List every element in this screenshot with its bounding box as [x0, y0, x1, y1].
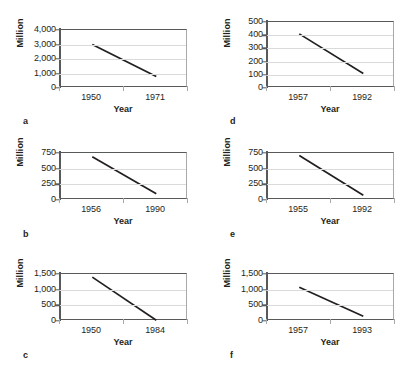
y-tick-label: 100 — [248, 69, 263, 79]
x-tick-mark — [394, 198, 395, 203]
y-tick-mark — [262, 21, 267, 22]
gridline — [59, 184, 186, 185]
x-tick-mark — [330, 198, 331, 203]
gridline — [59, 59, 186, 60]
chart-panel-a: Million 01,0002,0003,0004,000 19501971 Y… — [2, 2, 202, 122]
y-tick-mark — [262, 168, 267, 169]
x-tick-mark — [266, 198, 267, 203]
y-tick-label: 500 — [248, 299, 263, 309]
y-tick-label: 2,000 — [34, 53, 56, 63]
x-axis-title: Year — [266, 216, 394, 226]
data-line — [266, 153, 394, 200]
plot-area — [266, 273, 394, 320]
y-tick-label: 500 — [248, 163, 263, 173]
x-tick-mark — [187, 198, 188, 203]
gridline — [59, 290, 186, 291]
y-tick-label: 200 — [248, 56, 263, 66]
y-tick-label: 1,000 — [34, 68, 56, 78]
multi-panel-line-chart-figure: Million 01,0002,0003,0004,000 19501971 Y… — [0, 0, 415, 375]
y-tick-label: 1,500 — [34, 268, 56, 278]
plot-area — [266, 152, 394, 199]
y-tick-mark — [262, 48, 267, 49]
x-tick-label: 1984 — [145, 325, 165, 335]
data-line — [266, 274, 394, 321]
x-tick-label: 1957 — [288, 325, 308, 335]
x-axis-title: Year — [59, 104, 187, 114]
x-axis-title: Year — [59, 216, 187, 226]
y-tick-mark — [55, 73, 60, 74]
y-tick-label: 500 — [41, 163, 56, 173]
y-axis-tick-labels: 0100200300400500 — [219, 2, 263, 122]
y-axis-tick-labels: 05001,0001,500 — [219, 248, 263, 368]
y-tick-label: 1,500 — [241, 268, 263, 278]
x-tick-label: 1992 — [352, 204, 372, 214]
x-tick-mark — [123, 319, 124, 324]
y-tick-mark — [262, 184, 267, 185]
gridline — [266, 290, 393, 291]
y-tick-mark — [262, 61, 267, 62]
x-tick-label: 1992 — [352, 92, 372, 102]
x-tick-mark — [187, 86, 188, 91]
plot-area — [59, 273, 187, 320]
y-tick-label: 300 — [248, 42, 263, 52]
chart-panel-e: Million 0250500750 19551992 Year e — [209, 127, 409, 247]
y-tick-label: 250 — [41, 178, 56, 188]
x-tick-mark — [266, 319, 267, 324]
x-tick-label: 1990 — [145, 204, 165, 214]
x-tick-mark — [266, 86, 267, 91]
y-tick-label: 500 — [248, 16, 263, 26]
y-tick-label: 400 — [248, 29, 263, 39]
y-tick-mark — [262, 273, 267, 274]
x-tick-mark — [59, 198, 60, 203]
gridline — [266, 48, 393, 49]
x-tick-label: 1955 — [288, 204, 308, 214]
plot-area — [266, 21, 394, 87]
y-tick-label: 750 — [248, 147, 263, 157]
y-tick-label: 4,000 — [34, 24, 56, 34]
y-tick-mark — [262, 74, 267, 75]
x-tick-mark — [59, 319, 60, 324]
x-tick-mark — [187, 319, 188, 324]
x-tick-mark — [394, 319, 395, 324]
x-tick-label: 1971 — [145, 92, 165, 102]
gridline — [266, 305, 393, 306]
x-tick-mark — [123, 198, 124, 203]
x-tick-label: 1950 — [81, 325, 101, 335]
y-axis-tick-labels: 01,0002,0003,0004,000 — [12, 2, 56, 122]
y-axis-tick-labels: 05001,0001,500 — [12, 248, 56, 368]
x-tick-mark — [123, 86, 124, 91]
panel-letter: b — [23, 229, 29, 239]
y-tick-mark — [55, 168, 60, 169]
x-tick-mark — [59, 86, 60, 91]
data-line — [266, 22, 394, 88]
gridline — [266, 169, 393, 170]
gridline — [266, 75, 393, 76]
gridline — [59, 74, 186, 75]
chart-panel-f: Million 05001,0001,500 19571993 Year f — [209, 248, 409, 368]
data-line — [59, 153, 187, 200]
x-tick-label: 1993 — [352, 325, 372, 335]
gridline — [266, 35, 393, 36]
y-tick-mark — [55, 44, 60, 45]
y-tick-mark — [55, 289, 60, 290]
x-tick-mark — [330, 319, 331, 324]
plot-area — [59, 152, 187, 199]
panel-letter: e — [230, 229, 235, 239]
chart-panel-d: Million 0100200300400500 19571992 Year d — [209, 2, 409, 122]
y-tick-mark — [55, 184, 60, 185]
chart-panel-c: Million 05001,0001,500 19501984 Year c — [2, 248, 202, 368]
plot-area — [59, 29, 187, 87]
y-tick-label: 1,000 — [34, 284, 56, 294]
data-line — [59, 274, 187, 321]
chart-panel-b: Million 0250500750 19561990 Year b — [2, 127, 202, 247]
panel-letter: f — [230, 350, 233, 360]
gridline — [59, 169, 186, 170]
x-tick-label: 1956 — [81, 204, 101, 214]
y-tick-label: 750 — [41, 147, 56, 157]
x-tick-mark — [330, 86, 331, 91]
y-tick-mark — [55, 273, 60, 274]
x-axis-title: Year — [266, 104, 394, 114]
gridline — [266, 62, 393, 63]
y-tick-mark — [262, 289, 267, 290]
gridline — [266, 184, 393, 185]
